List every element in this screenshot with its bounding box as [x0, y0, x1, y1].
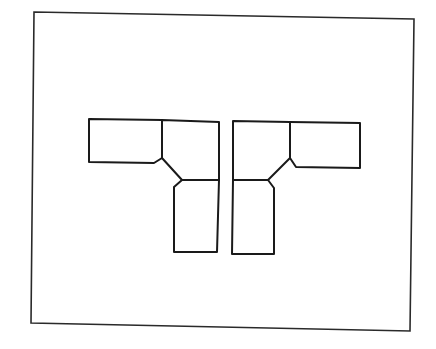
- left-arm-top: [89, 119, 162, 163]
- diagram-canvas: [0, 0, 436, 349]
- right-arm-top: [290, 122, 360, 168]
- left-arm-bottom: [174, 180, 219, 252]
- right-corner-sectional: [232, 121, 360, 254]
- outer-frame: [31, 12, 414, 331]
- right-corner-block: [233, 121, 290, 180]
- diagram-svg: [0, 0, 436, 349]
- right-arm-bottom: [232, 180, 274, 254]
- left-corner-block: [162, 120, 219, 180]
- left-corner-sectional: [89, 119, 219, 252]
